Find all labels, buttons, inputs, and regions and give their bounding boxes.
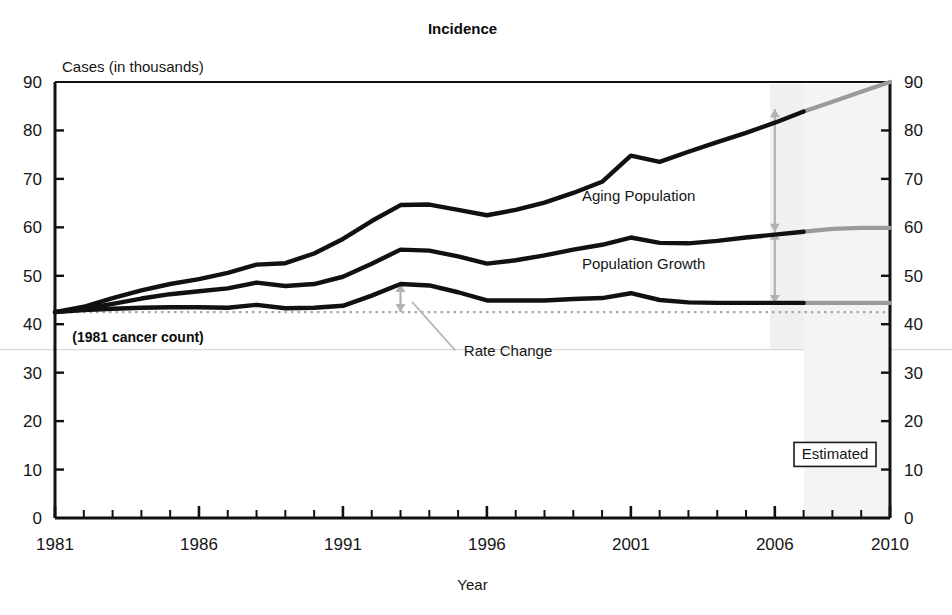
y-tick-label-right-50: 50: [904, 267, 923, 286]
y-tick-label-right-80: 80: [904, 121, 923, 140]
estimated-badge-group: Estimated: [794, 442, 876, 466]
x-tick-label-2006: 2006: [756, 535, 794, 554]
annotation-aging-population: Aging Population: [582, 187, 695, 204]
y-tick-label-left-90: 90: [23, 73, 42, 92]
x-tick-label-2010: 2010: [871, 535, 909, 554]
estimated-badge: Estimated: [794, 442, 876, 466]
y-tick-label-right-40: 40: [904, 315, 923, 334]
y-tick-label-right-70: 70: [904, 170, 923, 189]
annotation-population-growth: Population Growth: [582, 255, 705, 272]
annotation-rate-change: Rate Change: [464, 342, 552, 359]
y-tick-label-left-30: 30: [23, 364, 42, 383]
y-tick-label-left-50: 50: [23, 267, 42, 286]
y-tick-label-left-10: 10: [23, 461, 42, 480]
y-tick-label-left-40: 40: [23, 315, 42, 334]
x-tick-label-1996: 1996: [468, 535, 506, 554]
y-tick-label-left-80: 80: [23, 121, 42, 140]
y-tick-label-right-60: 60: [904, 218, 923, 237]
estimated-badge-label: Estimated: [802, 445, 869, 462]
x-tick-label-2001: 2001: [612, 535, 650, 554]
y-tick-label-right-30: 30: [904, 364, 923, 383]
y-tick-label-right-0: 0: [904, 509, 913, 528]
y-axis-title: Cases (in thousands): [62, 58, 204, 75]
incidence-chart: 0010102020303040405050606070708080909019…: [0, 0, 952, 615]
y-tick-label-right-90: 90: [904, 73, 923, 92]
y-tick-label-right-20: 20: [904, 412, 923, 431]
x-axis-title: Year: [457, 576, 487, 593]
y-tick-label-right-10: 10: [904, 461, 923, 480]
x-tick-label-1981: 1981: [36, 535, 74, 554]
x-tick-label-1991: 1991: [324, 535, 362, 554]
y-tick-label-left-60: 60: [23, 218, 42, 237]
chart-canvas: 0010102020303040405050606070708080909019…: [0, 0, 952, 615]
annotation-baseline-note: (1981 cancer count): [72, 329, 204, 345]
x-tick-label-1986: 1986: [180, 535, 218, 554]
y-tick-label-left-0: 0: [33, 509, 42, 528]
y-tick-label-left-20: 20: [23, 412, 42, 431]
chart-title: Incidence: [428, 20, 497, 37]
y-tick-label-left-70: 70: [23, 170, 42, 189]
